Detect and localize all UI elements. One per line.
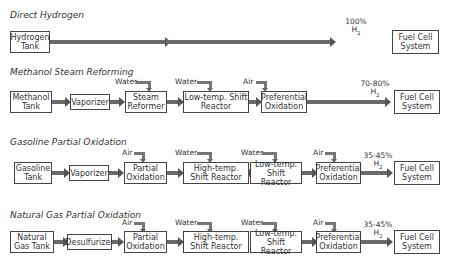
preferential-oxidation-box: Preferential Oxidation bbox=[316, 162, 361, 184]
h2-label: H2 bbox=[360, 229, 396, 240]
flow-arrow bbox=[307, 100, 386, 104]
air-feed-label: Air bbox=[243, 77, 253, 86]
flow-arrow bbox=[361, 171, 388, 175]
flow-arrow bbox=[166, 40, 331, 44]
flow-arrow bbox=[50, 40, 166, 44]
vaporizer-box: Vaporizer bbox=[69, 165, 109, 181]
gasoline-tank-box: Gasoline Tank bbox=[14, 162, 52, 184]
flow-arrow bbox=[167, 100, 179, 104]
flow-arrow bbox=[302, 171, 313, 175]
partial-oxidation-box: Partial Oxidation bbox=[124, 162, 167, 184]
row-title-methanol: Methanol Steam Reforming bbox=[10, 67, 133, 77]
high-temp-shift-reactor-box: High-temp. Shift Reactor bbox=[183, 162, 249, 184]
low-temp-shift-reactor-box: Low-temp. Shift Reactor bbox=[250, 162, 302, 184]
high-temp-shift-reactor-box: High-temp. Shift Reactor bbox=[183, 231, 249, 253]
preferential-oxidation-box: Preferential Oxidation bbox=[316, 231, 361, 253]
fuel-cell-system-box: Fuel Cell System bbox=[394, 90, 440, 114]
partial-oxidation-box: Partial Oxidation bbox=[124, 231, 167, 253]
flow-arrow bbox=[110, 100, 120, 104]
fuel-cell-system-box: Fuel Cell System bbox=[394, 161, 440, 185]
flow-arrow bbox=[249, 100, 257, 104]
h2-label: H2 bbox=[357, 88, 393, 99]
water-feed-label: Water bbox=[175, 148, 197, 157]
air-feed-label: Air bbox=[122, 148, 132, 157]
row-title-direct-hydrogen: Direct Hydrogen bbox=[10, 10, 84, 20]
h2-label: H2 bbox=[360, 160, 396, 171]
water-feed-label: Water bbox=[115, 77, 137, 86]
methanol-tank-box: Methanol Tank bbox=[10, 91, 52, 113]
output-h2-percentage: 35-45% H2 bbox=[360, 221, 396, 240]
flow-arrow bbox=[302, 240, 313, 244]
water-feed-label: Water bbox=[241, 148, 263, 157]
flow-arrow bbox=[167, 171, 179, 175]
low-temp-shift-reactor-box: Low-temp. Shift Reactor bbox=[250, 231, 302, 253]
steam-reformer-box: Steam Reformer bbox=[125, 91, 167, 113]
output-h2-percentage: 35-45% H2 bbox=[360, 152, 396, 171]
water-feed-label: Water bbox=[241, 218, 263, 227]
fuel-cell-system-box: Fuel Cell System bbox=[394, 230, 440, 254]
air-feed-label: Air bbox=[313, 148, 323, 157]
vaporizer-box: Vaporizer bbox=[70, 94, 110, 110]
preferential-oxidation-box: Preferential Oxidation bbox=[261, 91, 307, 113]
flow-arrow bbox=[361, 240, 388, 244]
output-h2-percentage: 100% H2 bbox=[338, 18, 374, 37]
air-feed-label: Air bbox=[313, 218, 323, 227]
low-temp-shift-reactor-box: Low-temp. Shift Reactor bbox=[183, 91, 249, 113]
h2-label: H2 bbox=[338, 26, 374, 37]
flow-arrow bbox=[112, 240, 119, 244]
flow-arrow bbox=[167, 240, 179, 244]
flow-arrow bbox=[54, 240, 64, 244]
flow-arrow bbox=[52, 100, 66, 104]
water-feed-label: Water bbox=[175, 77, 197, 86]
output-h2-percentage: 70-80% H2 bbox=[357, 80, 393, 99]
fuel-cell-system-box: Fuel Cell System bbox=[392, 30, 439, 54]
air-feed-label: Air bbox=[122, 218, 132, 227]
water-feed-label: Water bbox=[175, 218, 197, 227]
desulfurizer-box: Desulfurizer bbox=[67, 234, 112, 250]
row-title-gasoline: Gasoline Partial Oxidation bbox=[10, 137, 127, 147]
flow-arrow bbox=[109, 171, 119, 175]
flow-arrow bbox=[52, 171, 65, 175]
hydrogen-tank-box: Hydrogen Tank bbox=[10, 31, 50, 53]
natural-gas-tank-box: Natural Gas Tank bbox=[10, 231, 54, 253]
